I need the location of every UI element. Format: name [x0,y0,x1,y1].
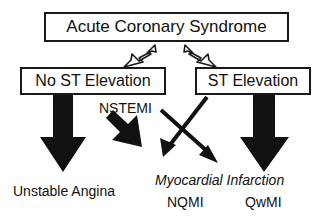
node-no-st-elevation-label: No ST Elevation [35,72,150,90]
connector-no-st-elevation-to-unstable-angina-icon [40,95,86,172]
node-acute-coronary-syndrome-label: Acute Coronary Syndrome [66,17,266,37]
node-no-st-elevation: No ST Elevation [20,67,166,95]
label-qwmi: QwMI [245,194,282,210]
label-myocardial-infarction: Myocardial Infarction [155,172,284,188]
connector-st-elevation-to-nqmi-icon [160,97,207,157]
connector-acs-to-st-elevation-icon [184,45,216,67]
label-nqmi: NQMI [167,194,204,210]
label-unstable-angina: Unstable Angina [13,183,115,199]
node-st-elevation: ST Elevation [195,67,311,95]
connector-acs-to-no-st-elevation-icon [124,45,156,67]
label-nstemi: NSTEMI [99,100,152,116]
connector-st-elevation-to-qwmi-icon [240,95,289,172]
acute-coronary-syndrome-flowchart: Acute Coronary Syndrome No ST Elevation … [0,0,325,221]
connector-no-st-elevation-to-qwmi-icon [161,110,218,163]
node-acute-coronary-syndrome: Acute Coronary Syndrome [44,12,289,42]
node-st-elevation-label: ST Elevation [208,72,298,90]
